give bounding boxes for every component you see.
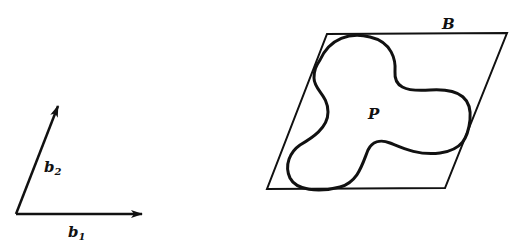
label-b2: b2	[44, 158, 62, 177]
basis-vectors: b1 b2	[16, 106, 142, 242]
label-B: B	[441, 15, 455, 33]
label-P: P	[367, 105, 380, 123]
label-b1: b1	[68, 223, 85, 242]
lattice-basis-diagram: b1 b2 P B	[0, 0, 525, 245]
fundamental-domain: P B	[267, 15, 507, 190]
